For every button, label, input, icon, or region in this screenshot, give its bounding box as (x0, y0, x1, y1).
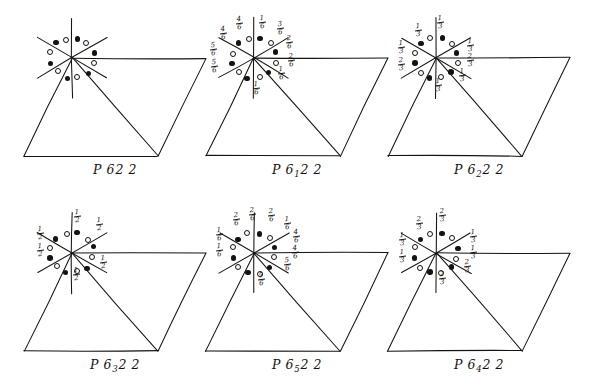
fraction-numerator: 1 (278, 66, 283, 72)
diagram-caption-p6222: P 622 2 (374, 162, 584, 179)
height-fraction-label: 16 (250, 81, 263, 96)
fraction-bar (36, 232, 43, 234)
fraction-bar (99, 261, 106, 263)
filled-circle-icon (273, 49, 279, 55)
caption-symbol-main: P 6 (93, 162, 115, 177)
height-fraction-label: 16 (213, 243, 226, 258)
fraction-denominator: 6 (234, 220, 239, 226)
fraction-bar (466, 44, 473, 46)
height-fraction-label: 46 (290, 229, 303, 244)
fraction-bar (72, 273, 79, 275)
filled-circle-icon (449, 264, 455, 270)
height-fraction-label: 56 (255, 272, 268, 287)
fraction-bar (469, 251, 476, 253)
fraction-bar (210, 65, 217, 67)
fraction-denominator: 6 (287, 43, 292, 49)
filled-circle-icon (53, 236, 59, 242)
height-fraction-label: 16 (281, 216, 294, 231)
fraction-numerator: 4 (292, 245, 297, 251)
height-fraction-label: 12 (34, 243, 47, 258)
open-circle-icon (230, 244, 236, 250)
caption-symbol-main: P 6 (454, 357, 476, 372)
fraction-numerator: 1 (284, 216, 289, 222)
height-fraction-label: 13 (434, 15, 447, 30)
open-circle-icon (47, 245, 53, 251)
fraction-denominator: 6 (211, 50, 216, 56)
height-fraction-label: 13 (456, 68, 469, 83)
fraction-denominator: 6 (217, 251, 222, 257)
fraction-denominator: 3 (417, 224, 422, 230)
fraction-denominator: 2 (75, 217, 80, 223)
fraction-numerator: 2 (288, 53, 293, 59)
height-fraction-label: 13 (412, 23, 425, 38)
fraction-numerator: 2 (249, 207, 254, 213)
fraction-numerator: 1 (259, 15, 264, 21)
space-group-diagram-p6222: 1313132313231313P 622 2 (374, 12, 584, 177)
fraction-numerator: 4 (236, 16, 241, 22)
fraction-denominator: 6 (221, 34, 226, 40)
fraction-bar (436, 21, 443, 23)
fraction-numerator: 2 (416, 216, 421, 222)
fraction-numerator: 1 (467, 38, 472, 44)
fraction-denominator: 2 (97, 225, 102, 231)
fraction-numerator: 1 (470, 245, 475, 251)
fraction-bar (95, 223, 102, 225)
fraction-denominator: 3 (468, 61, 473, 67)
caption-symbol-main: P 6 (90, 357, 112, 372)
fraction-bar (36, 249, 43, 251)
fraction-numerator: 5 (210, 42, 215, 48)
diagram-caption-p622: P 62 2 (10, 162, 220, 179)
open-circle-icon (230, 51, 236, 57)
fraction-denominator: 6 (269, 216, 274, 222)
filled-circle-icon (47, 255, 53, 261)
open-circle-icon (267, 235, 273, 241)
fraction-denominator: 3 (400, 257, 405, 263)
height-fraction-label: 23 (395, 57, 408, 72)
filled-circle-icon (92, 50, 98, 56)
height-fraction-label: 36 (274, 21, 287, 36)
fraction-bar (434, 84, 441, 86)
fraction-numerator: 1 (96, 217, 101, 223)
diagram-caption-p6122: P 612 2 (192, 162, 402, 179)
caption-symbol-main: P 6 (272, 357, 294, 372)
open-circle-icon (47, 49, 53, 55)
fraction-bar (397, 46, 404, 48)
fraction-bar (277, 72, 284, 74)
fraction-denominator: 6 (285, 265, 290, 271)
open-circle-icon (427, 35, 433, 41)
filled-circle-icon (257, 36, 263, 42)
fraction-denominator: 6 (237, 24, 242, 30)
filled-circle-icon (439, 231, 445, 237)
fraction-denominator: 6 (289, 61, 294, 67)
fraction-denominator: 3 (399, 65, 404, 71)
height-fraction-label: 13 (396, 249, 409, 264)
height-fraction-label: 46 (233, 16, 246, 31)
fraction-denominator: 3 (399, 48, 404, 54)
fraction-numerator: 1 (37, 226, 42, 232)
fraction-numerator: 1 (399, 232, 404, 238)
filled-circle-icon (74, 230, 80, 236)
fraction-numerator: 2 (286, 35, 291, 41)
fraction-bar (276, 27, 283, 29)
space-group-diagram-p6122: 46163646265626561616P 612 2 (192, 12, 402, 177)
fraction-denominator: 6 (254, 89, 259, 95)
filled-circle-icon (412, 60, 418, 66)
diagram-caption-p6322: P 632 2 (10, 357, 220, 374)
fraction-numerator: 2 (439, 271, 444, 277)
diagram-caption-p6522: P 652 2 (192, 357, 402, 374)
height-fraction-label: 46 (217, 26, 230, 41)
open-circle-icon (63, 37, 69, 43)
fraction-bar (287, 59, 294, 61)
fraction-denominator: 6 (294, 237, 299, 243)
height-fraction-label: 23 (413, 216, 426, 231)
fraction-denominator: 6 (278, 29, 283, 35)
fraction-bar (469, 235, 476, 237)
fraction-bar (292, 235, 299, 237)
fraction-numerator: 3 (277, 21, 282, 27)
fraction-numerator: 1 (37, 243, 42, 249)
height-fraction-label: 23 (436, 208, 449, 223)
fraction-denominator: 6 (212, 67, 217, 73)
filled-circle-icon (412, 255, 418, 261)
fraction-denominator: 2 (74, 275, 79, 281)
fraction-numerator: 2 (233, 212, 238, 218)
